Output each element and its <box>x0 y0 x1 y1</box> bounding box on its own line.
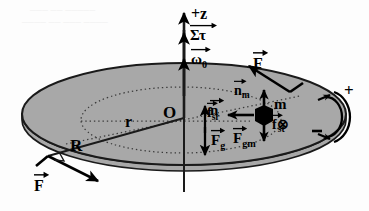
mass-normal-label-nm: nm <box>234 84 250 101</box>
tangential-friction-subscript: st <box>278 124 285 134</box>
outer-radius-label-R: R <box>70 137 82 154</box>
inner-radius-label-r: r <box>125 114 132 130</box>
disk-center-label-O: O <box>163 104 176 121</box>
physics-diagram: ─── ── ───── ──── ── ─── ──── <box>0 0 369 211</box>
mass-normal-subscript: m <box>242 90 250 100</box>
omega-subscript: 0 <box>202 59 207 70</box>
axis-label-net-torque: Στ <box>190 28 206 43</box>
rotation-sense-positive-label: + <box>344 82 354 99</box>
applied-force-label-top-right: F <box>253 56 263 72</box>
gravity-subscript: g <box>220 140 225 151</box>
mass-gravity-label-Fgm: Fgm <box>233 131 256 149</box>
applied-force-label-bottom-left: F <box>34 178 44 194</box>
diagram-canvas <box>0 0 369 211</box>
radial-friction-subscript: sr <box>212 112 220 122</box>
mass-gravity-subscript: gm <box>242 138 256 149</box>
mass-label-m: m <box>274 97 287 112</box>
gravity-vector-label-Fg: Fg <box>211 133 225 151</box>
axis-label-plus-z: +z <box>191 6 207 22</box>
radial-friction-label-fsr: fsr <box>207 106 220 123</box>
tangential-friction-label-fst: f⊗st <box>272 118 285 135</box>
axis-label-angular-velocity: ω0 <box>191 52 207 70</box>
